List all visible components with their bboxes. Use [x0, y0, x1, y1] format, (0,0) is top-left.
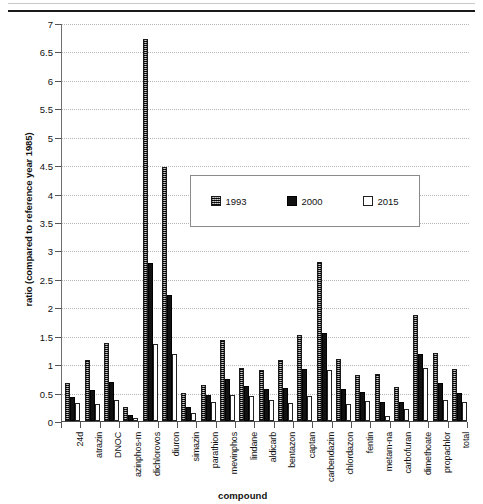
x-axis-tick-mark — [138, 422, 139, 428]
bar-2015-chlordazon — [346, 404, 351, 421]
x-axis-tick-label: chlordazon — [345, 432, 355, 475]
y-axis-tick-label: 2 — [48, 303, 53, 314]
bar-2015-simazin — [191, 413, 196, 421]
bar-2015-captan — [307, 396, 312, 421]
x-axis-tick-label: dichlorovos — [152, 432, 162, 476]
bar-2015-DNOC — [114, 400, 119, 421]
x-axis-tick-mark — [332, 422, 333, 428]
bar-group — [143, 23, 158, 421]
chart-page: ratio (compared to reference year 1985) … — [0, 0, 483, 504]
legend-label-2015: 2015 — [377, 196, 398, 207]
bar-group — [123, 23, 138, 421]
bar-group — [162, 23, 177, 421]
bar-group — [452, 23, 467, 421]
x-axis-tick-mark — [100, 422, 101, 428]
y-axis-tick-label: 2.5 — [40, 274, 53, 285]
x-axis-tick-label: bentazon — [287, 432, 297, 468]
bar-2015-total — [462, 402, 467, 421]
bar-group — [85, 23, 100, 421]
x-axis-tick-mark — [254, 422, 255, 428]
bar-2015-carbendazim — [327, 370, 332, 421]
x-axis-tick-mark — [216, 422, 217, 428]
x-axis-tick-mark — [158, 422, 159, 428]
filled-square-icon — [287, 196, 297, 206]
bar-group — [433, 23, 448, 421]
y-axis-tick-label: 4 — [48, 189, 53, 200]
x-axis-tick-label: mevinphos — [229, 432, 239, 474]
legend-item-2015: 2015 — [343, 196, 419, 207]
chart-legend: 1993 2000 2015 — [190, 175, 420, 227]
x-axis-tick-mark — [293, 422, 294, 428]
x-axis-tick-mark — [312, 422, 313, 428]
x-axis-tick-mark — [80, 422, 81, 428]
bar-2015-metam-na — [385, 416, 390, 421]
y-axis-tick-label: 0 — [48, 417, 53, 428]
y-axis-tick-label: 0.5 — [40, 388, 53, 399]
bar-chart: ratio (compared to reference year 1985) … — [0, 18, 483, 504]
x-axis-tick-label: fentin — [365, 432, 375, 453]
bar-2015-carbofuran — [404, 409, 409, 421]
bar-2015-bentazon — [288, 403, 293, 421]
bar-2015-lindane — [249, 396, 254, 421]
page-top-rule — [8, 10, 475, 12]
x-axis-tick-label: carbofuran — [403, 432, 413, 474]
y-axis-ticks: 00.511.522.533.544.555.566.57 — [0, 18, 61, 422]
bar-2015-mevinphos — [230, 395, 235, 421]
y-axis-tick-label: 6 — [48, 75, 53, 86]
bar-2015-24d — [75, 403, 80, 421]
x-axis-tick-label: aldicarb — [268, 432, 278, 462]
bar-2015-atrazin — [95, 404, 100, 421]
bar-2015-parathion — [211, 402, 216, 421]
legend-item-1993: 1993 — [191, 196, 267, 207]
x-axis-tick-label: atrazin — [94, 432, 104, 458]
legend-label-1993: 1993 — [225, 196, 246, 207]
bar-2015-aldicarb — [269, 400, 274, 421]
y-axis-tick-label: 1 — [48, 360, 53, 371]
x-axis-tick-label: metam-na — [384, 432, 394, 471]
x-axis-tick-mark — [61, 422, 62, 428]
x-axis-tick-mark — [409, 422, 410, 428]
x-axis-tick-mark — [467, 422, 468, 428]
bar-2015-diuron — [172, 354, 177, 421]
x-axis-tick-label: azinphos-m — [133, 432, 143, 477]
x-axis-tick-mark — [119, 422, 120, 428]
legend-item-2000: 2000 — [267, 196, 343, 207]
x-axis-tick-label: captan — [307, 432, 317, 458]
empty-square-icon — [363, 196, 373, 206]
x-axis-tick-mark — [428, 422, 429, 428]
y-axis-tick-label: 6.5 — [40, 47, 53, 58]
x-axis-tick-label: propachlor — [442, 432, 452, 473]
y-axis-tick-label: 4.5 — [40, 161, 53, 172]
x-axis-tick-mark — [177, 422, 178, 428]
x-axis-tick-mark — [370, 422, 371, 428]
hatched-square-icon — [211, 196, 221, 206]
bar-group — [65, 23, 80, 421]
x-axis-tick-mark — [448, 422, 449, 428]
bar-2015-propachlor — [443, 400, 448, 421]
x-axis-tick-label: 24d — [75, 432, 85, 447]
x-axis-tick-mark — [390, 422, 391, 428]
bar-2015-fentin — [365, 401, 370, 421]
x-axis-tick-label: lindane — [249, 432, 259, 460]
x-axis-tick-label: diuron — [171, 432, 181, 456]
bar-group — [104, 23, 119, 421]
x-axis-tick-mark — [235, 422, 236, 428]
bar-2015-dimethoate — [423, 368, 428, 421]
x-axis-tick-mark — [351, 422, 352, 428]
y-axis-tick-label: 3.5 — [40, 218, 53, 229]
y-axis-tick-label: 1.5 — [40, 331, 53, 342]
bar-2015-azinphos-m — [133, 418, 138, 421]
y-axis-tick-label: 5.5 — [40, 104, 53, 115]
x-axis-tick-label: parathion — [210, 432, 220, 468]
x-axis-tick-label: simazin — [191, 432, 201, 461]
x-axis-tick-mark — [196, 422, 197, 428]
x-axis-tick-label: total — [461, 432, 471, 448]
legend-label-2000: 2000 — [301, 196, 322, 207]
y-axis-tick-label: 7 — [48, 19, 53, 30]
x-axis-tick-label: DNOC — [113, 432, 123, 458]
y-axis-tick-label: 3 — [48, 246, 53, 257]
x-axis-title: compound — [218, 490, 267, 501]
x-axis-tick-label: carbendazim — [326, 432, 336, 482]
x-axis-tick-mark — [274, 422, 275, 428]
bar-2015-dichlorovos — [153, 344, 158, 421]
